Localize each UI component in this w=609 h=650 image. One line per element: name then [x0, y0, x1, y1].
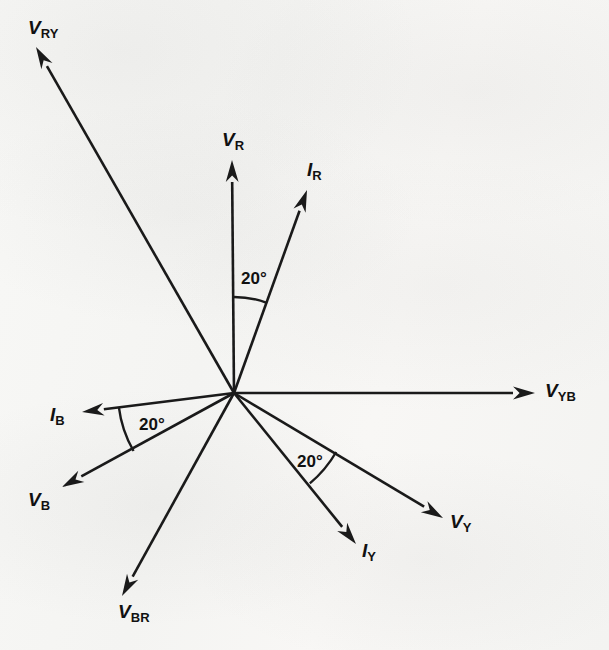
- phasor-line-v-y: [234, 393, 424, 507]
- arrowhead-i-r: [294, 190, 307, 213]
- label-subscript: R: [312, 168, 322, 183]
- angle-VR-IR-label: 20°: [241, 270, 267, 287]
- label-symbol: V: [28, 489, 41, 510]
- phasor-label-v-b: VB: [28, 490, 50, 509]
- angle-VY-IY-label: 20°: [297, 453, 323, 470]
- angle-IB-VB-label: 20°: [139, 416, 165, 433]
- arrowhead-i-b: [82, 403, 105, 416]
- phasor-diagram-page: VRYVRIRVYBVYIYVBRVBIB20°20°20°: [0, 0, 609, 650]
- arrowhead-v-b: [62, 471, 84, 487]
- phasor-label-i-y: IY: [362, 541, 376, 560]
- label-subscript: BR: [131, 610, 150, 625]
- label-symbol: V: [118, 601, 131, 622]
- phasor-label-v-y: VY: [450, 512, 472, 531]
- label-subscript: YB: [558, 389, 576, 404]
- label-symbol: V: [222, 129, 235, 150]
- angle-IB-VB: [119, 407, 134, 451]
- phasor-line-v-ry: [47, 66, 234, 393]
- label-symbol: V: [545, 380, 558, 401]
- label-subscript: B: [55, 413, 65, 428]
- arrowhead-v-y: [421, 501, 443, 518]
- phasor-label-i-r: IR: [307, 160, 322, 179]
- label-subscript: R: [235, 138, 245, 153]
- label-subscript: Y: [463, 520, 472, 535]
- label-subscript: Y: [367, 549, 376, 564]
- arrowhead-v-r: [226, 160, 239, 182]
- phasor-line-i-y: [234, 393, 342, 527]
- label-symbol: V: [450, 511, 463, 532]
- phasor-line-v-r: [232, 182, 234, 393]
- label-subscript: RY: [41, 26, 59, 41]
- phasor-label-v-ry: VRY: [28, 18, 59, 37]
- phasor-label-i-b: IB: [50, 405, 65, 424]
- arrowhead-v-yb: [513, 387, 535, 400]
- phasor-label-v-br: VBR: [118, 602, 150, 621]
- angle-VR-IR: [234, 297, 267, 303]
- phasor-label-v-r: VR: [222, 130, 244, 149]
- phasor-label-v-yb: VYB: [545, 381, 576, 400]
- arrowhead-v-br: [122, 574, 138, 596]
- phasor-line-i-b: [104, 393, 234, 409]
- arrowhead-v-ry: [36, 47, 52, 69]
- label-symbol: V: [28, 17, 41, 38]
- label-subscript: B: [41, 498, 51, 513]
- phasor-diagram-figure: [0, 0, 609, 650]
